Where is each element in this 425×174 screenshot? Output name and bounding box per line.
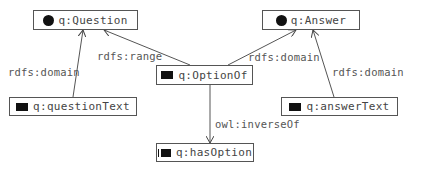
node-answer[interactable]: q:Answer xyxy=(262,10,360,30)
edge-label-range: rdfs:range xyxy=(97,50,162,62)
class-circle-icon xyxy=(276,15,287,26)
node-label: q:hasOption xyxy=(176,146,252,159)
edge-domain-questiontext-question xyxy=(73,30,83,97)
edge-label-domain-optionof: rdfs:domain xyxy=(248,51,320,63)
node-label: q:OptionOf xyxy=(178,69,247,82)
property-rect-icon xyxy=(289,103,301,111)
property-rect-icon xyxy=(158,149,171,157)
edge-label-domain-questiontext: rdfs:domain xyxy=(8,66,80,78)
node-label: q:Answer xyxy=(291,14,346,27)
property-rect-icon xyxy=(161,71,173,79)
node-label: q:questionText xyxy=(33,100,130,113)
edge-label-domain-answertext: rdfs:domain xyxy=(332,66,404,78)
property-rect-icon xyxy=(16,103,28,111)
node-optionof[interactable]: q:OptionOf xyxy=(156,65,253,85)
node-questiontext[interactable]: q:questionText xyxy=(9,97,137,116)
node-label: q:Question xyxy=(58,14,127,27)
node-question[interactable]: q:Question xyxy=(33,10,138,30)
node-hasoption[interactable]: q:hasOption xyxy=(156,143,254,162)
edge-label-inverseof: owl:inverseOf xyxy=(215,118,300,130)
edge-domain-answertext-answer xyxy=(313,30,334,97)
node-label: q:answerText xyxy=(306,100,389,113)
node-answertext[interactable]: q:answerText xyxy=(281,97,398,116)
class-circle-icon xyxy=(43,15,54,26)
